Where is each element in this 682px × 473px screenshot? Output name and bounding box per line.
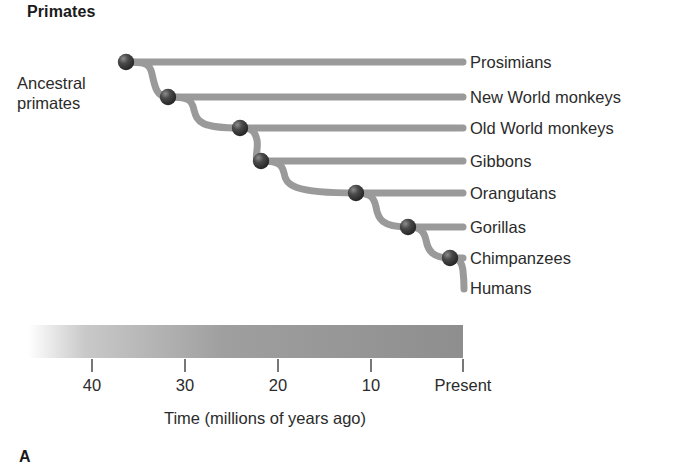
time-scale-bar xyxy=(28,325,463,358)
panel-letter: A xyxy=(19,448,31,466)
axis-tick-label-10: 10 xyxy=(362,377,380,394)
axis-tick-label-40: 40 xyxy=(83,377,101,394)
connector-n2 xyxy=(168,97,240,128)
time-scale-graphic xyxy=(28,325,463,372)
tip-label-chimpanzees: Chimpanzees xyxy=(470,250,571,267)
axis-tick-label-present: Present xyxy=(435,377,492,394)
tip-label-prosimians: Prosimians xyxy=(470,54,552,71)
tip-label-humans: Humans xyxy=(470,280,531,297)
tip-label-orangutans: Orangutans xyxy=(470,185,556,202)
node-chimpanzee-human-split xyxy=(442,250,458,266)
tree-branches xyxy=(30,62,464,289)
connector-n4 xyxy=(261,161,356,193)
node-old-world-monkey-split xyxy=(232,120,248,136)
tip-label-new-world-monkeys: New World monkeys xyxy=(470,89,621,106)
connector-n1 xyxy=(126,62,168,97)
axis-title: Time (millions of years ago) xyxy=(0,409,530,428)
axis-tick-label-30: 30 xyxy=(176,377,194,394)
node-new-world-monkey-split xyxy=(160,89,176,105)
tip-label-old-world-monkeys: Old World monkeys xyxy=(470,120,614,137)
node-gibbon-split xyxy=(253,153,269,169)
node-orangutan-split xyxy=(348,185,364,201)
tip-label-gibbons: Gibbons xyxy=(470,153,531,170)
tip-label-gorillas: Gorillas xyxy=(470,219,526,236)
phylogenetic-tree-graphic xyxy=(0,0,682,473)
node-gorilla-split xyxy=(400,219,416,235)
figure-canvas: Primates Ancestral primates xyxy=(0,0,682,473)
node-prosimian-split xyxy=(118,54,134,70)
connector-n5 xyxy=(356,193,408,227)
axis-tick-label-20: 20 xyxy=(269,377,287,394)
